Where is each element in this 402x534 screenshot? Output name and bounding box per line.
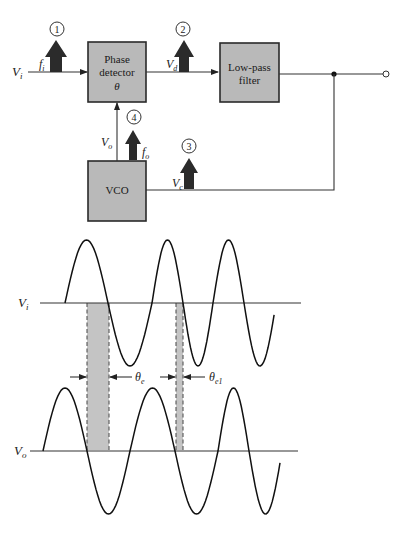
phase-error-1-region — [176, 303, 183, 450]
up-arrow-icon — [125, 130, 141, 160]
output-frequency-label: fo — [142, 145, 149, 161]
measurement-arrow-1: 1 fi — [39, 22, 67, 73]
phase-error-1-label: θe1 — [209, 370, 222, 386]
lpf-label-line1: Low-pass — [228, 61, 271, 73]
phase-detector-label-line2: detector — [99, 66, 135, 78]
phase-error-label: θe — [135, 370, 145, 386]
detector-output-label: Vd — [166, 57, 178, 73]
phase-detector-theta: θ — [114, 80, 120, 92]
vco-label: VCO — [105, 184, 128, 196]
output-terminal — [383, 71, 389, 77]
vco-output-label: Vo — [101, 135, 112, 151]
measurement-arrow-3: 3 — [180, 139, 198, 189]
point-1-number: 1 — [55, 24, 60, 35]
block-diagram: Vi Phase detector θ Vd Low-pass filter V… — [12, 22, 389, 221]
lpf-label-line2: filter — [239, 74, 261, 86]
pll-figure: Vi Phase detector θ Vd Low-pass filter V… — [0, 0, 402, 534]
input-wave-label: Vi — [18, 295, 29, 312]
output-wave-label: Vo — [14, 443, 27, 460]
measurement-arrow-4: 4 fo — [125, 110, 149, 161]
up-arrow-icon — [45, 40, 67, 72]
phase-detector-label-line1: Phase — [104, 53, 130, 65]
waveform-section: Vi Vo θe θe1 — [14, 240, 301, 514]
point-2-number: 2 — [181, 24, 186, 35]
input-signal-label: Vi — [12, 64, 23, 81]
point-4-number: 4 — [132, 112, 137, 123]
phase-error-region — [87, 303, 109, 450]
point-3-number: 3 — [187, 141, 192, 152]
control-voltage-label: Vc — [172, 176, 183, 192]
phase-error-1-indicator: θe1 — [160, 370, 222, 386]
input-frequency-label: fi — [39, 57, 45, 73]
